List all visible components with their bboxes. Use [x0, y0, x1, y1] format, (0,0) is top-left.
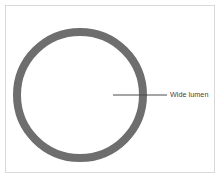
vessel-cross-section-figure: Wide lumen — [0, 0, 221, 181]
callout-label-wide-lumen: Wide lumen — [170, 90, 208, 99]
